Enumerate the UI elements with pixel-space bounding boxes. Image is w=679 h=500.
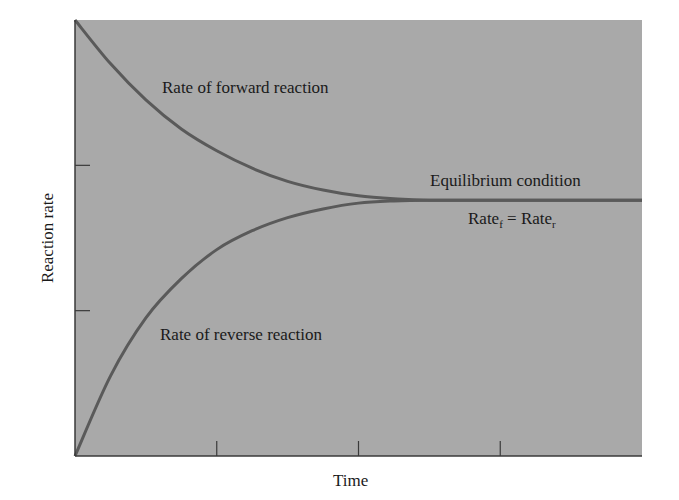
chart-canvas xyxy=(0,0,679,500)
forward-label: Rate of forward reaction xyxy=(162,79,329,96)
x-axis-label: Time xyxy=(333,472,368,489)
subscript-r: r xyxy=(552,218,556,230)
equals-sign: = xyxy=(503,209,521,228)
equilibrium-label: Equilibrium condition xyxy=(430,172,581,189)
y-axis-label: Reaction rate xyxy=(38,193,58,283)
reverse-label: Rate of reverse reaction xyxy=(160,326,322,343)
rate-equality-label: Ratef = Rater xyxy=(468,210,556,227)
plot-area xyxy=(75,20,642,456)
rate-f-text: Rate xyxy=(468,209,499,228)
rate-r-text: Rate xyxy=(521,209,552,228)
subscript-f: f xyxy=(499,218,503,230)
